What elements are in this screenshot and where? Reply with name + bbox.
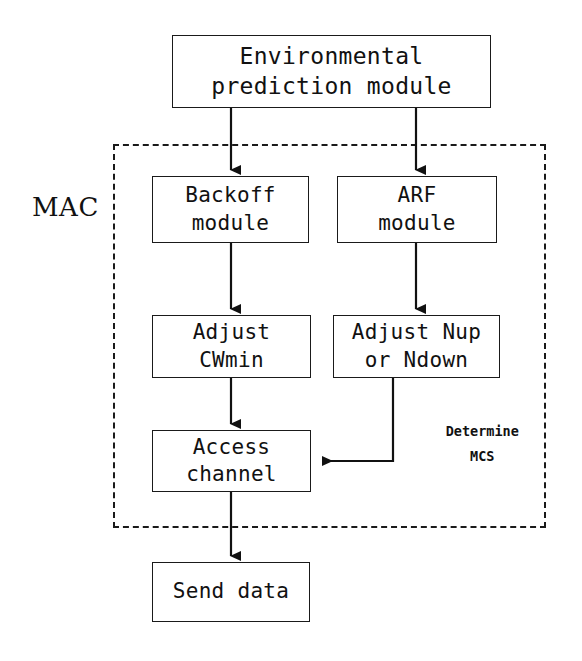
- node-line-2: or Ndown: [365, 347, 469, 374]
- node-line-2: CWmin: [199, 347, 264, 374]
- node-access-channel: Access channel: [152, 430, 311, 492]
- edge-adjust-nup-to-access: [322, 378, 393, 461]
- edge-label-line-1: Determine: [446, 423, 519, 439]
- node-line-2: prediction module: [211, 72, 452, 102]
- flowchart-diagram: MAC Determine MCS Environmen: [0, 0, 582, 661]
- edge-label-determine-mcs: Determine MCS: [404, 393, 528, 496]
- node-line-2: module: [378, 210, 456, 237]
- node-line-2: module: [192, 210, 270, 237]
- node-line-1: Send data: [173, 578, 290, 605]
- node-line-2: channel: [186, 461, 277, 488]
- mac-layer-label: MAC: [32, 192, 99, 222]
- node-environmental-prediction-module: Environmental prediction module: [172, 35, 491, 108]
- node-line-1: Adjust: [193, 319, 271, 346]
- node-arf-module: ARF module: [337, 176, 497, 243]
- node-line-1: Adjust Nup: [352, 319, 481, 346]
- node-send-data: Send data: [152, 562, 310, 622]
- node-line-1: Backoff: [185, 182, 276, 209]
- node-adjust-nup-or-ndown: Adjust Nup or Ndown: [333, 315, 500, 378]
- node-adjust-cwmin: Adjust CWmin: [152, 315, 311, 378]
- node-backoff-module: Backoff module: [152, 176, 309, 243]
- node-line-1: ARF: [398, 182, 437, 209]
- node-line-1: Access: [193, 434, 271, 461]
- edge-label-line-2: MCS: [470, 448, 494, 464]
- node-line-1: Environmental: [240, 42, 424, 72]
